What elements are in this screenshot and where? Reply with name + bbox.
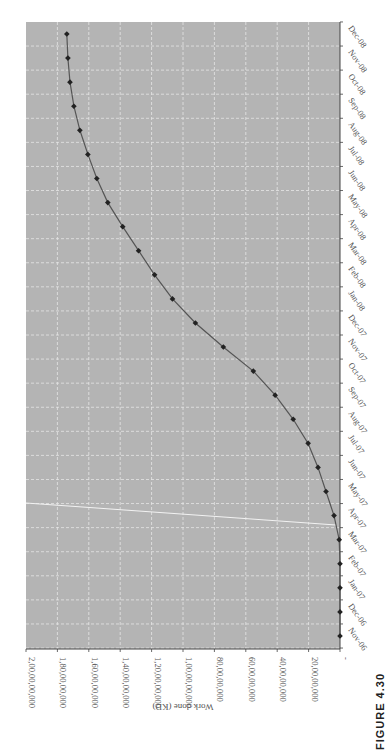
x-tick-label: Feb-08 <box>346 264 368 289</box>
x-tick-label: Oct-08 <box>346 72 368 97</box>
y-axis-tick-labels: -20,00,00,00040,00,00,00060,00,00,00080,… <box>27 657 351 708</box>
y-axis-title: Work done (KD) <box>153 702 214 712</box>
x-tick-label: Nov-06 <box>346 625 369 652</box>
x-axis-tick-labels: Nov-06Dec-06Jan-07Feb-07Mar-07Apr-07May-… <box>346 23 370 652</box>
y-tick-label: 1,80,00,00,000 <box>58 657 68 708</box>
x-tick-label: Dec-07 <box>346 312 369 338</box>
y-tick-label: 1,60,00,00,000 <box>90 657 100 708</box>
y-tick-label: 40,00,00,000 <box>278 657 288 702</box>
x-tick-label: Feb-07 <box>346 553 368 578</box>
y-tick-label: 1,20,00,00,000 <box>153 657 163 708</box>
x-tick-label: Aug-07 <box>346 409 369 436</box>
x-tick-label: Sep-08 <box>346 96 368 121</box>
x-tick-label: Oct-07 <box>346 361 368 386</box>
x-tick-label: Nov-07 <box>346 336 369 363</box>
x-tick-label: Aug-08 <box>346 120 369 147</box>
x-tick-label: Jan-08 <box>346 288 367 312</box>
work-done-chart: -20,00,00,00040,00,00,00060,00,00,00080,… <box>0 0 389 750</box>
x-tick-label: Jun-07 <box>346 457 367 482</box>
x-tick-label: Sep-07 <box>346 385 368 410</box>
y-tick-label: 1,40,00,00,000 <box>121 657 131 708</box>
x-tick-label: May-07 <box>346 481 370 509</box>
y-tick-label: - <box>341 657 351 660</box>
y-tick-label: 1,00,00,00,000 <box>184 657 194 708</box>
y-tick-label: 2,00,00,00,000 <box>27 657 37 708</box>
x-tick-label: Dec-08 <box>346 23 369 49</box>
x-tick-label: Jan-07 <box>346 577 367 601</box>
x-tick-label: Nov-08 <box>346 47 369 74</box>
y-tick-label: 20,00,00,000 <box>310 657 320 702</box>
x-tick-label: Jun-08 <box>346 168 367 193</box>
y-tick-label: 80,00,00,000 <box>215 657 225 702</box>
x-tick-label: Jul-08 <box>346 144 366 167</box>
x-tick-label: Dec-06 <box>346 601 369 627</box>
x-tick-label: May-08 <box>346 192 370 220</box>
x-tick-label: Mar-08 <box>346 240 369 266</box>
x-tick-label: Apr-08 <box>346 216 368 242</box>
x-tick-label: Jul-07 <box>346 433 366 456</box>
x-tick-label: Apr-07 <box>346 505 368 531</box>
x-tick-label: Mar-07 <box>346 529 369 555</box>
figure-label: FIGURE 4.30 <box>374 673 386 750</box>
y-tick-label: 60,00,00,000 <box>247 657 257 702</box>
